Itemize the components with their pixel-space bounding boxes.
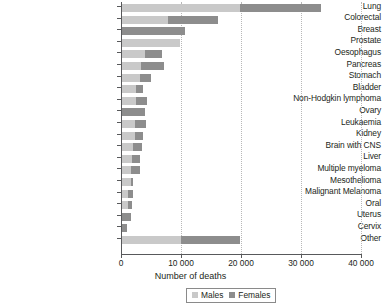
bar-segment-males	[121, 50, 145, 58]
y-tick	[117, 87, 121, 88]
y-tick	[117, 29, 121, 30]
bar-segment-females	[133, 143, 142, 151]
bar-segment-males	[121, 166, 131, 174]
table-row	[121, 190, 361, 198]
legend: Males Females	[186, 288, 276, 303]
y-tick	[117, 52, 121, 53]
bar-segment-females	[131, 166, 139, 174]
bar-segment-males	[121, 143, 133, 151]
table-row	[121, 143, 361, 151]
table-row	[121, 166, 361, 174]
table-row	[121, 97, 361, 105]
y-tick	[117, 134, 121, 135]
bar-segment-males	[121, 201, 128, 209]
bar-segment-females	[136, 85, 143, 93]
table-row	[121, 178, 361, 186]
table-row	[121, 201, 361, 209]
bar-segment-males	[121, 236, 181, 244]
y-tick	[117, 238, 121, 239]
bar-segment-males	[121, 97, 136, 105]
table-row	[121, 16, 361, 24]
y-tick	[117, 145, 121, 146]
table-row	[121, 27, 361, 35]
bar-segment-females	[181, 236, 240, 244]
table-row	[121, 62, 361, 70]
y-tick	[117, 110, 121, 111]
legend-label-males: Males	[201, 290, 223, 300]
y-tick	[117, 18, 121, 19]
y-tick	[117, 226, 121, 227]
table-row	[121, 50, 361, 58]
bar-segment-males	[121, 62, 141, 70]
y-tick	[117, 215, 121, 216]
y-tick	[117, 64, 121, 65]
y-tick	[117, 168, 121, 169]
x-axis-title: Number of deaths	[0, 271, 381, 281]
bar-segment-males	[121, 4, 240, 12]
bar-segment-females	[168, 16, 218, 24]
y-tick	[117, 6, 121, 7]
table-row	[121, 120, 361, 128]
x-tick-label: 0	[91, 258, 151, 268]
legend-item-males: Males	[192, 290, 223, 300]
y-axis-line	[121, 2, 122, 254]
x-tick-label: 20 000	[211, 258, 271, 268]
bar-segment-females	[240, 4, 321, 12]
x-tick-label: 10 000	[151, 258, 211, 268]
bar-segment-females	[135, 120, 146, 128]
table-row	[121, 108, 361, 116]
bar-segment-females	[128, 201, 132, 209]
legend-label-females: Females	[238, 290, 270, 300]
bar-segment-females	[121, 213, 131, 221]
bar-segment-males	[121, 85, 136, 93]
y-tick	[117, 99, 121, 100]
table-row	[121, 39, 361, 47]
table-row	[121, 224, 361, 232]
bar-segment-males	[121, 132, 135, 140]
table-row	[121, 155, 361, 163]
bar-segment-females	[132, 155, 140, 163]
y-tick	[117, 122, 121, 123]
gridline	[361, 2, 362, 254]
bar-segment-females	[140, 74, 151, 82]
bar-segment-females	[141, 62, 163, 70]
table-row	[121, 236, 361, 244]
bar-segment-females	[122, 27, 185, 35]
x-tick-label: 30 000	[271, 258, 331, 268]
bar-segment-males	[121, 74, 140, 82]
x-tick-label: 40 000	[331, 258, 386, 268]
bar-segment-females	[128, 190, 133, 198]
table-row	[121, 74, 361, 82]
y-tick	[117, 192, 121, 193]
bar-segment-females	[145, 50, 162, 58]
y-tick	[117, 203, 121, 204]
y-tick	[117, 180, 121, 181]
bar-segment-females	[136, 97, 147, 105]
bar-segment-males	[121, 178, 131, 186]
table-row	[121, 85, 361, 93]
bar-segment-females	[135, 132, 143, 140]
y-tick	[117, 41, 121, 42]
bar-segment-males	[121, 155, 132, 163]
bar-segment-males	[121, 120, 135, 128]
legend-swatch-males-icon	[192, 292, 198, 298]
table-row	[121, 132, 361, 140]
bar-segment-males	[121, 39, 180, 47]
legend-item-females: Females	[229, 290, 270, 300]
y-tick	[117, 157, 121, 158]
table-row	[121, 4, 361, 12]
table-row	[121, 213, 361, 221]
bar-segment-females	[131, 178, 133, 186]
legend-swatch-females-icon	[229, 292, 235, 298]
y-tick	[117, 76, 121, 77]
bar-segment-females	[121, 108, 145, 116]
bar-segment-males	[121, 16, 168, 24]
plot-area	[121, 2, 361, 254]
